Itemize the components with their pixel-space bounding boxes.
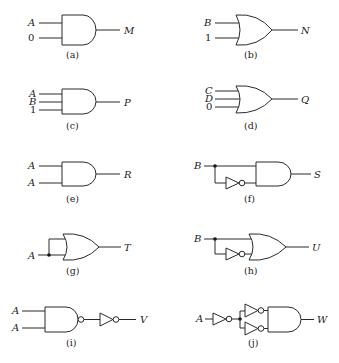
output-label: U bbox=[312, 242, 321, 253]
caption: (i) bbox=[66, 337, 76, 348]
and-gate-icon bbox=[62, 162, 96, 186]
input-label: 1 bbox=[30, 104, 36, 115]
inversion-bubble-icon bbox=[239, 251, 245, 257]
caption: (g) bbox=[66, 265, 80, 276]
output-label: R bbox=[123, 169, 132, 180]
circuit-j: A W (j) bbox=[195, 304, 328, 348]
nand-gate-icon bbox=[45, 307, 78, 332]
output-label: V bbox=[140, 314, 149, 325]
input-label: A bbox=[27, 177, 35, 188]
not-gate-icon bbox=[245, 304, 258, 317]
circuit-f: B S (f) bbox=[193, 160, 321, 204]
circuit-i: A A V (i) bbox=[11, 305, 149, 348]
or-gate-icon bbox=[236, 15, 272, 45]
output-label: Q bbox=[301, 94, 309, 105]
caption: (c) bbox=[66, 120, 79, 131]
caption: (h) bbox=[244, 265, 258, 276]
not-gate-icon bbox=[226, 177, 239, 189]
caption: (f) bbox=[244, 193, 255, 204]
caption: (a) bbox=[66, 49, 79, 60]
input-label: A bbox=[27, 160, 35, 171]
inversion-bubble-icon bbox=[226, 316, 232, 322]
input-label: A bbox=[27, 17, 35, 28]
and-gate-icon bbox=[62, 89, 96, 114]
circuit-d: C D 0 Q (d) bbox=[204, 85, 309, 131]
wire bbox=[215, 239, 226, 254]
not-gate-icon bbox=[245, 322, 258, 335]
circuit-h: B U (h) bbox=[193, 233, 321, 276]
caption: (d) bbox=[244, 120, 258, 131]
not-gate-icon bbox=[100, 313, 113, 326]
input-label: 0 bbox=[206, 101, 212, 112]
and-gate-icon bbox=[268, 307, 301, 332]
not-gate-icon bbox=[213, 313, 226, 325]
circuit-a: A 0 M (a) bbox=[27, 15, 135, 60]
input-label: 1 bbox=[205, 32, 211, 43]
or-gate-icon bbox=[249, 234, 286, 260]
wire bbox=[215, 166, 226, 183]
inversion-bubble-icon bbox=[258, 308, 264, 314]
input-label: B bbox=[193, 233, 201, 244]
output-label: T bbox=[124, 242, 132, 253]
inversion-bubble-icon bbox=[113, 317, 119, 323]
inversion-bubble-icon bbox=[258, 326, 264, 332]
or-gate-icon bbox=[63, 234, 99, 260]
or-gate-icon bbox=[236, 86, 272, 113]
logic-gates-figure: A 0 M (a) B 1 N (b) A B 1 P (c) C D 0 bbox=[0, 0, 339, 363]
output-label: M bbox=[123, 25, 135, 36]
circuit-c: A B 1 P (c) bbox=[28, 88, 131, 131]
input-label: A bbox=[11, 305, 19, 316]
inversion-bubble-icon bbox=[78, 317, 84, 323]
input-label: 0 bbox=[28, 32, 34, 43]
circuit-e: A A R (e) bbox=[27, 160, 132, 204]
input-label: A bbox=[11, 322, 19, 333]
output-label: W bbox=[317, 314, 328, 325]
input-label: A bbox=[195, 313, 203, 324]
wire bbox=[49, 239, 68, 255]
caption: (e) bbox=[66, 193, 79, 204]
and-gate-icon bbox=[256, 162, 291, 186]
caption: (b) bbox=[244, 49, 258, 60]
circuit-b: B 1 N (b) bbox=[203, 15, 311, 60]
output-label: P bbox=[123, 97, 131, 108]
input-label: A bbox=[27, 250, 35, 261]
inversion-bubble-icon bbox=[239, 180, 245, 186]
output-label: N bbox=[300, 25, 311, 36]
circuit-g: A T (g) bbox=[27, 234, 132, 276]
not-gate-icon bbox=[226, 248, 239, 260]
and-gate-icon bbox=[62, 15, 96, 45]
input-label: B bbox=[203, 17, 211, 28]
output-label: S bbox=[314, 169, 321, 180]
caption: (j) bbox=[248, 337, 258, 348]
input-label: B bbox=[193, 160, 201, 171]
